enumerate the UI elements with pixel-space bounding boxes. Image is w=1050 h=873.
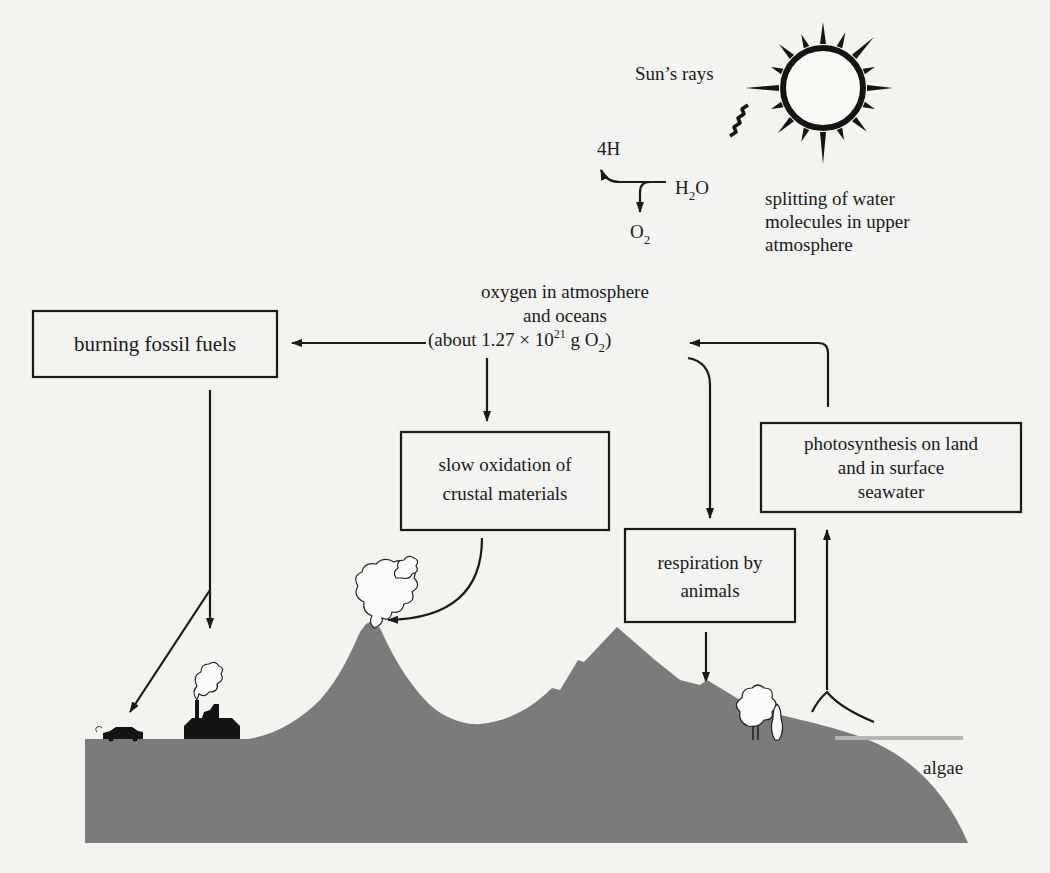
arrow-reservoir-to-respiration (688, 358, 710, 518)
water-molecule-label: H2O (675, 177, 709, 203)
factory-icon (184, 700, 240, 739)
svg-text:animals: animals (680, 580, 739, 601)
box-slow-oxidation: slow oxidation of crustal materials (401, 432, 609, 530)
oxygen-reservoir-label: oxygen in atmosphere and oceans (about 1… (428, 281, 649, 355)
svg-text:H2O: H2O (675, 177, 709, 203)
sun-icon (745, 22, 893, 164)
hydrogen-product-label: 4H (597, 138, 621, 159)
factory-smoke-icon (194, 662, 223, 700)
svg-text:splitting of water: splitting of water (765, 188, 895, 209)
water-splitting-caption: splitting of water molecules in upper at… (765, 188, 910, 255)
ray-squiggle-icon (730, 105, 748, 136)
svg-text:atmosphere: atmosphere (765, 234, 853, 255)
volcano-smoke-icon (356, 556, 418, 628)
svg-text:and in surface: and in surface (838, 457, 945, 478)
oxygen-product-label: O2 (630, 221, 650, 247)
box-respiration: respiration by animals (625, 529, 795, 622)
box-photosynthesis: photosynthesis on land and in surface se… (761, 423, 1021, 512)
svg-text:(about 1.27 × 1021 g O2): (about 1.27 × 1021 g O2) (428, 327, 611, 355)
svg-text:respiration by: respiration by (657, 552, 763, 573)
svg-text:burning fossil fuels: burning fossil fuels (74, 332, 236, 356)
svg-text:crustal materials: crustal materials (442, 483, 567, 504)
svg-text:molecules in upper: molecules in upper (765, 211, 910, 232)
svg-text:photosynthesis on land: photosynthesis on land (804, 433, 979, 454)
sun-rays-label: Sun’s rays (635, 63, 714, 84)
svg-text:oxygen in atmosphere: oxygen in atmosphere (481, 281, 649, 302)
algae-uptake-fork (812, 692, 874, 722)
svg-text:seawater: seawater (858, 481, 925, 502)
oxygen-cycle-diagram: Sun’s rays 4H H2O O2 splitting of water … (0, 0, 1050, 873)
svg-text:O2: O2 (630, 221, 650, 247)
algae-label: algae (923, 757, 963, 778)
svg-text:slow oxidation of: slow oxidation of (439, 454, 573, 475)
split-arrow-to-hydrogen (601, 170, 666, 182)
box-burning-fossil-fuels: burning fossil fuels (33, 311, 277, 377)
split-arrow-to-oxygen (640, 182, 650, 212)
svg-text:and oceans: and oceans (523, 305, 607, 326)
